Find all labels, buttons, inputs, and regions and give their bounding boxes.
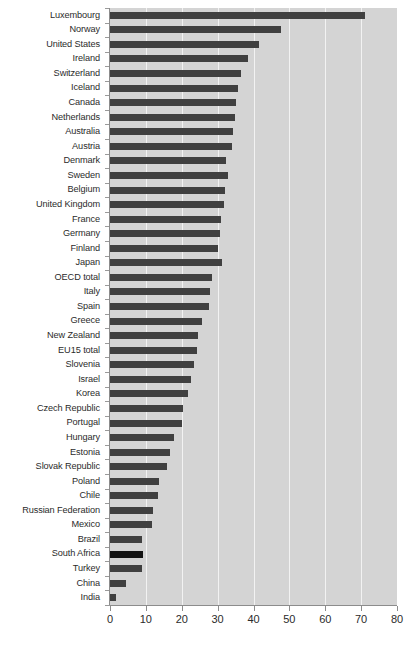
bar <box>110 230 220 237</box>
bar <box>110 41 259 48</box>
bar-row <box>110 95 397 110</box>
value-tick-label: 70 <box>355 614 367 625</box>
bar-row <box>110 139 397 154</box>
bar-row <box>110 591 397 606</box>
bar-row <box>110 343 397 358</box>
category-label: Netherlands <box>0 110 104 125</box>
bar <box>110 216 221 223</box>
category-label: Spain <box>0 299 104 314</box>
bar <box>110 361 194 368</box>
value-tick <box>289 606 290 611</box>
value-tick <box>110 606 111 611</box>
category-label: Canada <box>0 95 104 110</box>
bar <box>110 201 224 208</box>
value-axis-tick-labels: 01020304050607080 <box>110 614 397 634</box>
value-tick <box>146 606 147 611</box>
bar-row <box>110 183 397 198</box>
value-tick <box>254 606 255 611</box>
category-label: Poland <box>0 474 104 489</box>
value-tick-label: 80 <box>391 614 403 625</box>
value-axis-ticks <box>110 606 397 611</box>
bar <box>110 128 233 135</box>
bar <box>110 245 218 252</box>
bar-row <box>110 23 397 38</box>
bar <box>110 85 238 92</box>
category-label: Israel <box>0 372 104 387</box>
category-label: Luxembourg <box>0 8 104 23</box>
bar-row <box>110 285 397 300</box>
bar <box>110 536 142 543</box>
bar <box>110 187 225 194</box>
category-label: Turkey <box>0 561 104 576</box>
bar <box>110 420 182 427</box>
bar <box>110 259 222 266</box>
bar <box>110 114 235 121</box>
bar-row <box>110 66 397 81</box>
bar <box>110 99 236 106</box>
bar-row <box>110 489 397 504</box>
bar-row <box>110 168 397 183</box>
category-label: China <box>0 576 104 591</box>
bar-row <box>110 474 397 489</box>
bar-row <box>110 459 397 474</box>
bar-row <box>110 197 397 212</box>
category-label: Ireland <box>0 52 104 67</box>
category-axis-labels: LuxembourgNorwayUnited StatesIrelandSwit… <box>0 8 104 605</box>
category-label: Australia <box>0 125 104 140</box>
bar <box>110 507 153 514</box>
bar <box>110 347 197 354</box>
bar-row <box>110 314 397 329</box>
value-tick <box>218 606 219 611</box>
bar <box>110 521 152 528</box>
bar-row <box>110 52 397 67</box>
bar-row <box>110 110 397 125</box>
bar <box>110 565 142 572</box>
bar <box>110 303 209 310</box>
bar-chart: LuxembourgNorwayUnited StatesIrelandSwit… <box>0 0 418 655</box>
bar <box>110 288 210 295</box>
value-tick-label: 50 <box>283 614 295 625</box>
bar-row <box>110 430 397 445</box>
category-label: Austria <box>0 139 104 154</box>
bar-row <box>110 256 397 271</box>
bar <box>110 390 188 397</box>
bar <box>110 434 174 441</box>
category-label: Slovenia <box>0 358 104 373</box>
bar-row <box>110 212 397 227</box>
bar <box>110 551 143 558</box>
bar-row <box>110 401 397 416</box>
value-tick-label: 0 <box>107 614 113 625</box>
bar-row <box>110 270 397 285</box>
category-label: Chile <box>0 489 104 504</box>
value-tick-label: 60 <box>319 614 331 625</box>
value-tick-label: 40 <box>247 614 259 625</box>
bar-row <box>110 299 397 314</box>
bar-row <box>110 561 397 576</box>
category-label: Iceland <box>0 81 104 96</box>
category-label: Germany <box>0 226 104 241</box>
category-label: Russian Federation <box>0 503 104 518</box>
bar <box>110 26 281 33</box>
category-label: Czech Republic <box>0 401 104 416</box>
category-label: Mexico <box>0 518 104 533</box>
bar <box>110 143 232 150</box>
bar <box>110 70 241 77</box>
bar <box>110 157 226 164</box>
bar-row <box>110 8 397 23</box>
bar <box>110 580 126 587</box>
value-tick-label: 10 <box>140 614 152 625</box>
category-label: India <box>0 591 104 606</box>
bar <box>110 318 202 325</box>
category-label: Greece <box>0 314 104 329</box>
bar-row <box>110 387 397 402</box>
category-label: France <box>0 212 104 227</box>
category-label: Italy <box>0 285 104 300</box>
bar-row <box>110 532 397 547</box>
category-label: Portugal <box>0 416 104 431</box>
bar-row <box>110 226 397 241</box>
category-label: Brazil <box>0 532 104 547</box>
bar <box>110 55 248 62</box>
category-label: New Zealand <box>0 328 104 343</box>
bar-row <box>110 518 397 533</box>
bar <box>110 274 212 281</box>
